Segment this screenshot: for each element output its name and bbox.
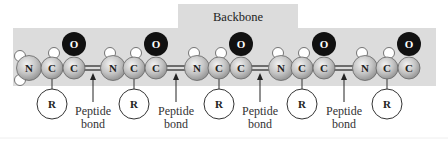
oxygen-atom: O [144,32,168,56]
svg-text:R: R [130,98,139,110]
svg-text:bond: bond [164,117,188,131]
svg-text:C: C [215,62,223,74]
backbone-atoms: N C C N C C N C C N C C N C C [17,56,421,81]
svg-text:O: O [152,38,161,50]
carbonyl-carbon-atom: C [230,57,252,79]
svg-text:N: N [361,62,369,74]
r-group: R [287,89,317,119]
svg-text:O: O [405,38,414,50]
alpha-carbon-atom: C [123,57,145,79]
svg-text:R: R [48,98,57,110]
alpha-carbon-atom: C [41,57,63,79]
svg-text:C: C [130,62,138,74]
svg-text:bond: bond [81,117,105,131]
backbone-title: Backbone [213,10,263,24]
r-group: R [119,89,149,119]
nitrogen-atom: N [269,56,294,81]
polypeptide-diagram: Backbone O O O O O N [0,0,448,141]
svg-text:C: C [152,62,160,74]
svg-text:C: C [70,62,78,74]
svg-text:C: C [48,62,56,74]
r-group: R [37,89,67,119]
alpha-carbon-atom: C [291,57,313,79]
svg-text:R: R [298,98,307,110]
svg-text:Peptide: Peptide [326,104,362,118]
carbonyl-carbon-atom: C [398,57,420,79]
nitrogen-atom: N [17,56,42,81]
oxygen-atom: O [312,32,336,56]
svg-text:C: C [405,62,413,74]
oxygen-atom: O [397,32,421,56]
svg-text:Peptide: Peptide [242,104,278,118]
svg-text:C: C [237,62,245,74]
svg-text:O: O [237,38,246,50]
r-group: R [204,89,234,119]
svg-text:N: N [277,62,285,74]
svg-text:C: C [320,62,328,74]
alpha-carbon-atom: C [208,57,230,79]
svg-text:N: N [109,62,117,74]
svg-text:Peptide: Peptide [75,104,111,118]
carbonyl-carbon-atom: C [63,57,85,79]
alpha-carbon-atom: C [376,57,398,79]
nitrogen-atom: N [185,56,210,81]
svg-text:R: R [215,98,224,110]
carbonyl-carbon-atom: C [145,57,167,79]
svg-text:bond: bond [332,117,356,131]
svg-text:R: R [383,98,392,110]
svg-text:O: O [70,38,79,50]
carbonyl-carbon-atom: C [313,57,335,79]
r-group: R [372,89,402,119]
oxygen-atom: O [229,32,253,56]
nitrogen-atom: N [353,56,378,81]
oxygen-atom: O [62,32,86,56]
svg-text:N: N [193,62,201,74]
svg-text:C: C [383,62,391,74]
svg-text:N: N [25,62,33,74]
svg-text:bond: bond [248,117,272,131]
svg-text:Peptide: Peptide [158,104,194,118]
svg-text:O: O [320,38,329,50]
svg-text:C: C [298,62,306,74]
nitrogen-atom: N [101,56,126,81]
